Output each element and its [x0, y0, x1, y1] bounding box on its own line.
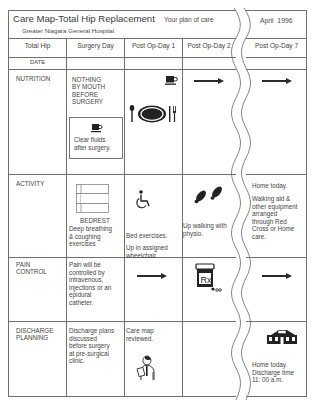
- border-top-right: [246, 10, 307, 11]
- text-line: 11: 00 a.m.: [252, 376, 294, 384]
- text-line: Up in assigned: [126, 244, 168, 252]
- bed-exercises-text: Bed exercises.: [126, 232, 167, 240]
- rule-pain: [8, 321, 236, 322]
- activity-surgery-day-text: Deep breathing & coughing exercises: [69, 225, 112, 248]
- text-line: wheelchair.: [126, 252, 168, 260]
- col-header-surgery-day: Surgery Day: [67, 42, 124, 49]
- row-label-pain-control: PAIN CONTROL: [16, 261, 47, 276]
- text-line: before surgery: [69, 342, 114, 350]
- clear-fluids-text: Clear fluids after surgery.: [74, 136, 111, 151]
- pain-surgery-day-text: Pain will be controlled by intravenous, …: [69, 261, 111, 307]
- prescription-bottle-icon: Rx: [194, 263, 224, 293]
- text-line: physio.: [183, 230, 227, 238]
- col-divider-2: [124, 38, 125, 397]
- text-line: BY MOUTH: [72, 83, 105, 90]
- hospital-name: Greater Niagara General Hospital: [22, 27, 114, 34]
- doctor-icon: [137, 355, 159, 381]
- text-line: clinic.: [69, 357, 114, 365]
- continue-arrow-icon: [262, 80, 288, 82]
- text-line: Discharge plans: [69, 327, 114, 335]
- border-top-left: [8, 10, 236, 11]
- walking-aid-text: Walking aid & other equipment arranged t…: [252, 195, 298, 241]
- text-line: DISCHARGE: [16, 327, 53, 334]
- rule-pain-r: [246, 321, 307, 322]
- footprints-icon: [192, 186, 226, 204]
- row-label-discharge-planning: DISCHARGE PLANNING: [16, 327, 53, 342]
- wheelchair-text: Up in assigned wheelchair.: [126, 244, 168, 259]
- text-line: at pre-surgical: [69, 350, 114, 358]
- rule-activity: [8, 257, 236, 258]
- svg-text:Rx: Rx: [201, 275, 212, 285]
- text-line: through Red: [252, 218, 298, 226]
- text-line: BEFORE: [72, 91, 105, 98]
- rule-date: [8, 69, 236, 70]
- rule-title: [8, 38, 236, 39]
- rule-date-r: [246, 69, 307, 70]
- col-divider-1: [66, 38, 67, 397]
- text-line: reviewed.: [126, 335, 154, 343]
- text-line: controlled by: [69, 269, 111, 277]
- plan-of-care-label: Your plan of care: [164, 16, 214, 23]
- text-line: intravenous,: [69, 276, 111, 284]
- rule-activity-r: [246, 257, 307, 258]
- text-line: Home today.: [252, 361, 294, 369]
- text-line: Up walking with: [183, 222, 227, 230]
- text-line: Discharge time: [252, 369, 294, 377]
- text-line: injections or an: [69, 284, 111, 292]
- text-line: Clear fluids: [74, 136, 111, 144]
- house-icon: [265, 329, 299, 345]
- clear-fluids-box: Clear fluids after surgery.: [69, 117, 123, 159]
- text-line: discussed: [69, 335, 114, 343]
- col-header-total-hip: Total Hip: [9, 42, 66, 49]
- continue-arrow-icon: [194, 80, 220, 82]
- text-line: Deep breathing: [69, 225, 112, 233]
- column-break-wavy-icon: [228, 8, 252, 400]
- date-label: April 1996: [260, 17, 293, 24]
- col-header-post-op-day-2: Post Op-Day 2: [183, 42, 235, 49]
- text-line: PAIN: [16, 261, 47, 268]
- continue-arrow-icon: [137, 275, 163, 277]
- text-line: NOTHING: [72, 76, 105, 83]
- row-label-nutrition: NUTRITION: [16, 75, 50, 82]
- wheelchair-icon: [136, 190, 152, 210]
- nutrition-surgery-day-text: NOTHING BY MOUTH BEFORE SURGERY: [72, 76, 105, 106]
- text-line: arranged: [252, 210, 298, 218]
- col-header-post-op-day-7: Post Op-Day 7: [246, 42, 307, 49]
- rule-title-r: [246, 38, 307, 39]
- text-line: Pain will be: [69, 261, 111, 269]
- text-line: exercises: [69, 240, 112, 248]
- text-line: CONTROL: [16, 268, 47, 275]
- rule-header: [8, 57, 236, 58]
- page-title: Care Map-Total Hip Replacement: [13, 13, 155, 24]
- rule-bottom-left: [8, 396, 236, 397]
- bedrest-label: BEDREST: [80, 217, 110, 224]
- text-line: other equipment: [252, 203, 298, 211]
- care-map-reviewed-text: Care map reviewed.: [126, 327, 154, 342]
- col-divider-3: [182, 38, 183, 397]
- text-line: & coughing: [69, 233, 112, 241]
- date-row-label: DATE: [9, 59, 66, 65]
- bed-icon: [76, 184, 110, 214]
- rule-nutrition-r: [246, 174, 307, 175]
- text-line: Cross or Home: [252, 225, 298, 233]
- text-line: SURGERY: [72, 98, 105, 105]
- text-line: epidural: [69, 291, 111, 299]
- discharge-time-text: Home today. Discharge time 11: 00 a.m.: [252, 361, 294, 384]
- text-line: Walking aid &: [252, 195, 298, 203]
- text-line: after surgery.: [74, 144, 111, 152]
- rule-bottom-r: [246, 396, 307, 397]
- rule-header-r: [246, 57, 307, 58]
- rule-nutrition: [8, 174, 236, 175]
- discharge-surgery-day-text: Discharge plans discussed before surgery…: [69, 327, 114, 365]
- text-line: care.: [252, 233, 298, 241]
- text-line: catheter.: [69, 299, 111, 307]
- text-line: Care map: [126, 327, 154, 335]
- row-label-activity: ACTIVITY: [16, 180, 44, 187]
- text-line: PLANNING: [16, 334, 53, 341]
- coffee-cup-icon: [165, 75, 178, 86]
- home-today-text: Home today.: [252, 182, 287, 190]
- col-header-post-op-day-1: Post Op-Day 1: [125, 42, 182, 49]
- continue-arrow-icon: [262, 275, 288, 277]
- coffee-cup-icon: [91, 123, 103, 133]
- place-setting-icon: [129, 104, 181, 124]
